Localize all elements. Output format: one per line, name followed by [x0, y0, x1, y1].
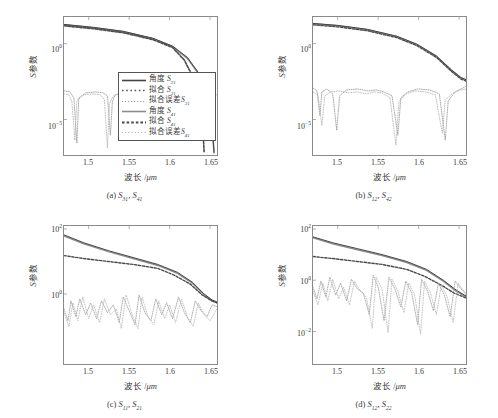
panel-d-xlabel: 波长 /μm	[312, 379, 467, 391]
xtick: 1.5	[83, 367, 93, 376]
panel-b-curves	[313, 17, 466, 155]
xtick: 1.5	[83, 158, 93, 167]
panel-b-xlabel: 波长 /μm	[312, 170, 467, 182]
panel-b: 100 10−5 S参数	[249, 0, 498, 209]
ytick: 100	[18, 43, 62, 54]
xtick: 1.5	[332, 158, 342, 167]
panel-a-xticks: 1.5 1.55 1.6 1.65	[63, 157, 218, 171]
panel-d-ylabel: S参数	[275, 245, 287, 305]
ytick: 10−5	[18, 120, 62, 131]
panel-d-plot	[312, 225, 467, 365]
panel-a-yticks: 100 10−5	[14, 16, 62, 156]
panel-d-xticks: 1.5 1.55 1.6 1.65	[312, 366, 467, 380]
panel-c-ylabel: S参数	[26, 245, 38, 305]
panel-a-legend: 角度 S31 拟合 S31 拟合误差S31 角度 S41 拟合 S41 拟合误差…	[118, 72, 216, 141]
ytick: 10−5	[267, 120, 311, 131]
legend-key-dashed	[121, 118, 147, 127]
legend-key-dotted-faint	[121, 128, 147, 137]
panel-c-xticks: 1.5 1.55 1.6 1.65	[63, 366, 218, 380]
xtick: 1.5	[332, 367, 342, 376]
xtick: 1.55	[371, 158, 385, 167]
ytick: 100	[267, 275, 311, 286]
xtick: 1.55	[122, 158, 136, 167]
xtick: 1.55	[371, 367, 385, 376]
panel-d-yticks: 102 100 10−2	[263, 225, 311, 365]
xtick: 1.65	[204, 367, 218, 376]
panel-d-curves	[313, 226, 466, 364]
xtick: 1.65	[453, 158, 467, 167]
legend-label: 拟合误差S41	[149, 127, 190, 140]
xtick: 1.65	[453, 367, 467, 376]
legend-key-dotted-thin	[121, 97, 147, 106]
panel-c-plot	[63, 225, 218, 365]
legend-key-solid-light	[121, 107, 147, 116]
panel-c-yticks: 102 100	[14, 225, 62, 365]
figure-root: 100 10−5 S参数	[0, 0, 498, 418]
ytick: 102	[267, 223, 311, 234]
xtick: 1.55	[122, 367, 136, 376]
xtick: 1.6	[165, 158, 175, 167]
panel-b-ylabel: S参数	[275, 36, 287, 96]
panel-a: 100 10−5 S参数	[0, 0, 249, 209]
xtick: 1.6	[165, 367, 175, 376]
panel-b-caption: (b) S12, S42	[249, 190, 498, 202]
xtick: 1.65	[204, 158, 218, 167]
legend-key-dotted	[121, 86, 147, 95]
ytick: 10−2	[267, 327, 311, 338]
panel-d: 102 100 10−2 S参数	[249, 209, 498, 418]
ytick: 102	[18, 223, 62, 234]
xtick: 1.6	[414, 158, 424, 167]
legend-item[interactable]: 拟合误差S41	[121, 128, 212, 139]
panel-b-plot	[312, 16, 467, 156]
panel-c-curves	[64, 226, 217, 364]
ytick: 100	[18, 289, 62, 300]
panel-a-ylabel: S参数	[26, 36, 38, 96]
xtick: 1.6	[414, 367, 424, 376]
panel-c-caption: (c) S11, S21	[0, 399, 249, 411]
panel-a-caption: (a) S31, S41	[0, 190, 249, 202]
panel-b-yticks: 100 10−5	[263, 16, 311, 156]
panel-a-xlabel: 波长 /μm	[63, 170, 218, 182]
legend-key-solid	[121, 76, 147, 85]
panel-b-xticks: 1.5 1.55 1.6 1.65	[312, 157, 467, 171]
ytick: 100	[267, 43, 311, 54]
panel-d-caption: (d) S12, S22	[249, 399, 498, 411]
panel-c-xlabel: 波长 /μm	[63, 379, 218, 391]
panel-c: 102 100 S参数	[0, 209, 249, 418]
